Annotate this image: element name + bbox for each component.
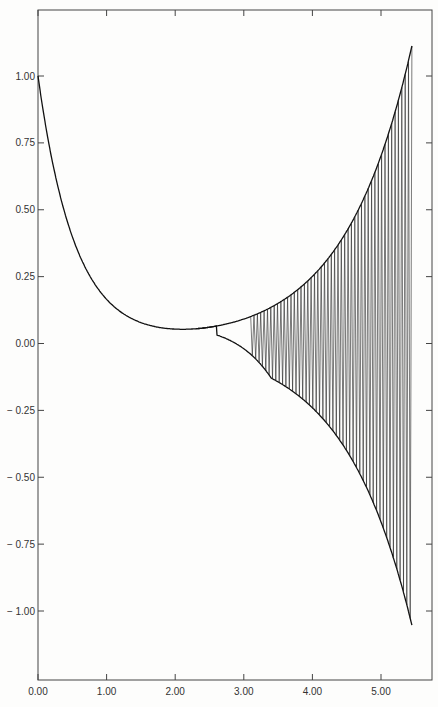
- y-tick-label: − 0.50: [7, 472, 36, 483]
- y-tick-label: − 0.75: [7, 539, 36, 550]
- chart: 1.000.750.500.250.00− 0.25− 0.50− 0.75− …: [0, 0, 438, 707]
- upper-envelope-curve: [38, 46, 412, 329]
- y-tick-label: 0.00: [16, 338, 36, 349]
- y-tick-label: − 1.00: [7, 606, 36, 617]
- y-tick-label: 0.50: [16, 204, 36, 215]
- plot-curves: [38, 46, 412, 625]
- y-tick-label: 0.25: [16, 271, 36, 282]
- x-tick-label: 2.00: [165, 686, 185, 697]
- x-tick-label: 0.00: [28, 686, 48, 697]
- y-tick-label: − 0.25: [7, 405, 36, 416]
- plot-frame: [38, 10, 432, 680]
- x-tick-label: 3.00: [234, 686, 254, 697]
- oscillation-curve: [251, 46, 412, 618]
- plot-border: [38, 10, 432, 680]
- y-tick-label: 1.00: [16, 71, 36, 82]
- y-axis-ticks: 1.000.750.500.250.00− 0.25− 0.50− 0.75− …: [7, 71, 432, 617]
- x-tick-label: 4.00: [303, 686, 323, 697]
- x-tick-label: 5.00: [371, 686, 391, 697]
- y-tick-label: 0.75: [16, 137, 36, 148]
- x-tick-label: 1.00: [97, 686, 117, 697]
